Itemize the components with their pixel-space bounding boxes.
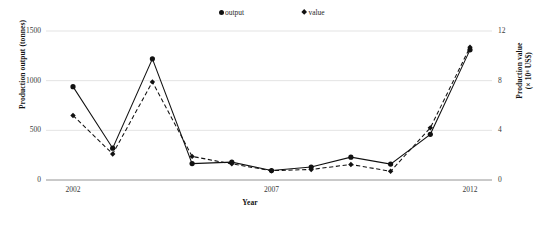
y-axis-left-tick-label: 500 (11, 125, 41, 134)
y-axis-right-title: Production value (× 10⁶ US$) (516, 1, 533, 141)
x-axis-tick-label: 2007 (252, 185, 292, 194)
y-axis-left-tick-label: 1500 (11, 26, 41, 35)
legend-item-output: output (219, 8, 244, 17)
y-axis-right-tick-label: 4 (498, 125, 528, 134)
y-axis-left-tick-label: 0 (11, 175, 41, 184)
legend-label-value: value (308, 8, 324, 17)
y-axis-right-tick-label: 12 (498, 26, 528, 35)
y-axis-left-title: Production output (tonnes) (18, 0, 27, 135)
circle-marker-icon (219, 10, 224, 15)
diamond-marker-icon (301, 9, 307, 15)
legend-label-output: output (225, 8, 244, 17)
y-axis-right-title-line2: (× 10⁶ US$) (525, 1, 534, 141)
y-axis-right-tick-label: 8 (498, 76, 528, 85)
y-axis-right-title-line1: Production value (515, 43, 524, 99)
y-axis-left-tick-label: 1000 (11, 76, 41, 85)
x-axis-tick-label: 2012 (450, 185, 490, 194)
x-axis-tick-label: 2002 (53, 185, 93, 194)
x-axis-title: Year (0, 198, 500, 207)
y-axis-right-tick-label: 0 (498, 175, 528, 184)
figure-caption (4, 214, 334, 226)
legend-item-value: value (302, 8, 325, 17)
figure-container: output value Production output (tonnes) … (0, 0, 543, 226)
